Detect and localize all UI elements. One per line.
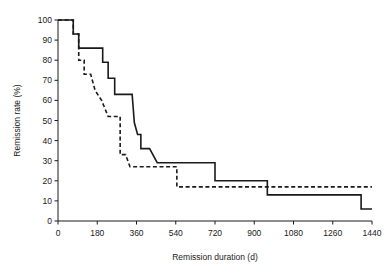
x-tick-label: 720 <box>208 228 222 238</box>
y-tick-label: 50 <box>43 116 53 126</box>
x-tick-label: 1080 <box>284 228 303 238</box>
chart-figure: 0102030405060708090100 01803605407209001… <box>0 0 387 274</box>
y-tick-label: 80 <box>43 55 53 65</box>
x-tick-label: 0 <box>56 228 61 238</box>
x-tick-label: 1440 <box>363 228 382 238</box>
x-tick-label: 180 <box>90 228 104 238</box>
y-tick-label: 70 <box>43 75 53 85</box>
y-tick-label: 60 <box>43 95 53 105</box>
y-tick-label: 100 <box>38 15 52 25</box>
y-tick-label: 30 <box>43 156 53 166</box>
y-axis-title: Remission rate (%) <box>12 84 22 156</box>
y-tick-label: 90 <box>43 35 53 45</box>
remission-rate-step-chart: 0102030405060708090100 01803605407209001… <box>0 0 387 274</box>
y-tick-label: 0 <box>47 216 52 226</box>
x-tick-label: 540 <box>169 228 183 238</box>
x-axis-ticks: 0180360540720900108012601440 <box>56 221 382 238</box>
x-tick-label: 360 <box>129 228 143 238</box>
x-tick-label: 900 <box>247 228 261 238</box>
y-axis-ticks: 0102030405060708090100 <box>38 15 58 226</box>
y-tick-label: 40 <box>43 136 53 146</box>
y-tick-label: 20 <box>43 176 53 186</box>
y-tick-label: 10 <box>43 196 53 206</box>
x-axis-title: Remission duration (d) <box>172 252 258 262</box>
x-tick-label: 1260 <box>323 228 342 238</box>
series-dashed-line <box>58 20 372 187</box>
series-solid-line <box>58 20 372 209</box>
